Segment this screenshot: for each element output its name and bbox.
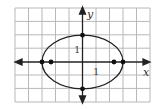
focus-right-point xyxy=(112,60,117,65)
vertex-left-point xyxy=(40,60,45,65)
x-axis-left-arrow-icon xyxy=(15,59,22,65)
focus-left-point xyxy=(49,60,54,65)
y-tick-label: 1 xyxy=(74,44,80,55)
y-axis-label: y xyxy=(86,8,94,21)
x-axis-right-arrow-icon xyxy=(143,59,150,65)
ellipse-graph: y x 1 1 xyxy=(0,0,157,109)
x-tick-label: 1 xyxy=(93,66,99,77)
x-axis-label: x xyxy=(143,66,150,79)
co-vertex-top-point xyxy=(80,33,85,38)
vertex-right-point xyxy=(121,60,126,65)
co-vertex-bottom-point xyxy=(80,86,85,91)
